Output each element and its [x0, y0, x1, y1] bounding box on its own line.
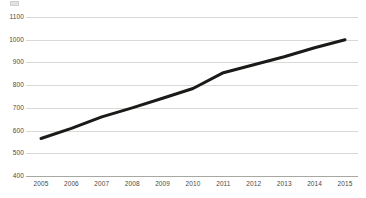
- y-tick-label-900: 900: [2, 59, 24, 66]
- x-tick-label-2011: 2011: [206, 181, 240, 188]
- gridline-1000: [26, 40, 358, 41]
- gridline-500: [26, 153, 358, 154]
- y-tick-label-1100: 1100: [2, 14, 24, 21]
- y-tick-label-500: 500: [2, 150, 24, 157]
- x-tick-label-2007: 2007: [85, 181, 119, 188]
- gridline-1100: [26, 17, 358, 18]
- y-tick-label-800: 800: [2, 82, 24, 89]
- gridline-400: [26, 176, 358, 177]
- gridline-600: [26, 131, 358, 132]
- series-line-0: [41, 40, 345, 139]
- series-line-group: [0, 0, 366, 198]
- gridline-700: [26, 108, 358, 109]
- y-tick-label-700: 700: [2, 105, 24, 112]
- y-tick-label-600: 600: [2, 127, 24, 134]
- x-tick-label-2009: 2009: [146, 181, 180, 188]
- y-tick-label-400: 400: [2, 173, 24, 180]
- x-tick-label-2008: 2008: [115, 181, 149, 188]
- line-chart: 40050060070080090010001100 2005200620072…: [0, 0, 366, 198]
- gridline-800: [26, 85, 358, 86]
- x-tick-label-2005: 2005: [24, 181, 58, 188]
- plot-area: 40050060070080090010001100 2005200620072…: [0, 0, 366, 198]
- x-tick-label-2015: 2015: [328, 181, 362, 188]
- gridline-900: [26, 62, 358, 63]
- y-tick-label-1000: 1000: [2, 36, 24, 43]
- x-tick-label-2013: 2013: [267, 181, 301, 188]
- x-tick-label-2012: 2012: [237, 181, 271, 188]
- x-tick-label-2014: 2014: [298, 181, 332, 188]
- x-tick-label-2010: 2010: [176, 181, 210, 188]
- x-tick-label-2006: 2006: [54, 181, 88, 188]
